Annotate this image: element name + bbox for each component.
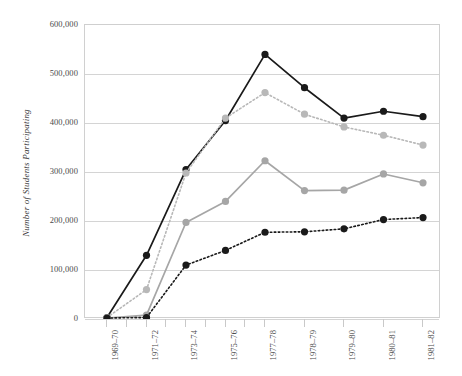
data-point-marker bbox=[301, 228, 308, 235]
data-point-marker bbox=[419, 113, 426, 120]
data-point-marker bbox=[182, 219, 189, 226]
x-axis-minor-tick bbox=[165, 319, 166, 327]
data-point-marker bbox=[222, 115, 229, 122]
y-axis-tick-labels: 600,000500,000400,000300,000200,000100,0… bbox=[20, 0, 78, 376]
x-axis-tick bbox=[422, 319, 423, 327]
data-point-marker bbox=[261, 89, 268, 96]
x-axis-tick bbox=[146, 319, 147, 327]
data-point-marker bbox=[380, 170, 387, 177]
data-point-marker bbox=[380, 108, 387, 115]
data-point-marker bbox=[380, 132, 387, 139]
y-axis-tick-label: 300,000 bbox=[22, 166, 78, 176]
y-axis-tick-label: 600,000 bbox=[22, 19, 78, 29]
x-axis-tick bbox=[383, 319, 384, 327]
y-axis-tick-label: 400,000 bbox=[22, 117, 78, 127]
x-axis-tick bbox=[225, 319, 226, 327]
data-point-marker bbox=[340, 115, 347, 122]
plot-area bbox=[84, 24, 440, 318]
x-axis-tick-label: 1969–70 bbox=[110, 330, 120, 376]
data-point-marker bbox=[340, 187, 347, 194]
data-point-marker bbox=[143, 286, 150, 293]
x-axis-tick-labels: 1969–701971–721973–741975–761977–781978–… bbox=[84, 330, 440, 376]
data-point-marker bbox=[419, 179, 426, 186]
x-axis-tick-label: 1973–74 bbox=[189, 330, 199, 376]
y-axis-tick-label: 200,000 bbox=[22, 215, 78, 225]
data-point-marker bbox=[419, 141, 426, 148]
data-point-marker bbox=[301, 84, 308, 91]
line-series-lightgray-dotted bbox=[107, 93, 423, 318]
y-axis-tick-label: 0 bbox=[22, 313, 78, 323]
data-point-marker bbox=[182, 262, 189, 269]
data-point-marker bbox=[301, 111, 308, 118]
data-point-marker bbox=[222, 247, 229, 254]
data-point-marker bbox=[222, 198, 229, 205]
x-axis-tick bbox=[304, 319, 305, 327]
x-axis-tick-label: 1978–79 bbox=[308, 330, 318, 376]
x-axis-tick-label: 1980–81 bbox=[387, 330, 397, 376]
data-point-marker bbox=[143, 252, 150, 259]
x-axis-tick-label: 1981–82 bbox=[426, 330, 436, 376]
x-axis-tick bbox=[106, 319, 107, 327]
series-lines bbox=[85, 25, 441, 319]
x-axis-tick-label: 1979–80 bbox=[347, 330, 357, 376]
data-point-marker bbox=[301, 187, 308, 194]
data-point-marker bbox=[182, 169, 189, 176]
data-point-marker bbox=[340, 123, 347, 130]
data-point-marker bbox=[380, 216, 387, 223]
x-axis-tick bbox=[185, 319, 186, 327]
x-axis-minor-tick bbox=[244, 319, 245, 327]
data-point-marker bbox=[340, 225, 347, 232]
x-axis-tick-label: 1975–76 bbox=[229, 330, 239, 376]
x-axis-tick bbox=[343, 319, 344, 327]
x-axis-minor-tick bbox=[205, 319, 206, 327]
data-point-marker bbox=[419, 214, 426, 221]
data-point-marker bbox=[261, 51, 268, 58]
x-axis-ticks bbox=[84, 319, 440, 328]
chart-container: Number of Students Participating 600,000… bbox=[0, 0, 462, 376]
x-axis-tick-label: 1977–78 bbox=[268, 330, 278, 376]
x-axis-minor-tick bbox=[126, 319, 127, 327]
x-axis-tick-label: 1971–72 bbox=[150, 330, 160, 376]
y-axis-tick-label: 500,000 bbox=[22, 68, 78, 78]
data-point-marker bbox=[261, 229, 268, 236]
data-point-marker bbox=[261, 157, 268, 164]
y-axis-tick-label: 100,000 bbox=[22, 264, 78, 274]
x-axis-tick bbox=[264, 319, 265, 327]
